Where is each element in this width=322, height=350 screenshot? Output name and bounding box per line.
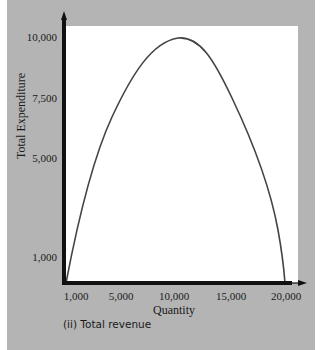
x-tick-1000: 1,000 [64, 290, 89, 302]
x-axis-arrow-icon [298, 280, 307, 286]
x-tick-5000: 5,000 [109, 290, 134, 302]
x-tick-10000: 10,000 [159, 290, 190, 302]
y-axis-arrow-icon [61, 11, 67, 20]
x-axis-title: Quantity [153, 303, 195, 317]
y-tick-10000: 10,000 [27, 31, 58, 43]
y-tick-5000: 5,000 [32, 152, 57, 164]
plot-area [66, 26, 298, 283]
y-tick-1000: 1,000 [32, 251, 57, 263]
x-tick-15000: 15,000 [216, 290, 247, 302]
total-revenue-chart: 10,000 7,500 5,000 1,000 1,000 5,000 10,… [0, 0, 322, 350]
y-axis-title: Total Expenditure [14, 73, 28, 159]
y-tick-7500: 7,500 [32, 92, 57, 104]
x-tick-20000: 20,000 [271, 290, 302, 302]
figure-caption: (ii) Total revenue [63, 318, 151, 330]
